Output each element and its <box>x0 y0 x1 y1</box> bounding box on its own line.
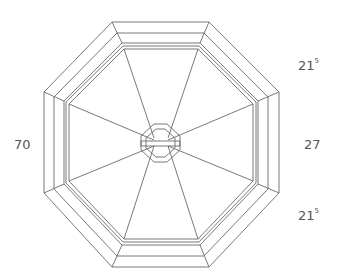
dimension-label-right-middle: 27 <box>304 137 321 152</box>
label-main: 21 <box>298 58 315 73</box>
frame-ring-2 <box>54 33 268 256</box>
label-sup: 5 <box>315 207 319 215</box>
dimension-label-right-bottom: 215 <box>298 208 319 223</box>
label-main: 27 <box>304 137 321 152</box>
octagon-window-diagram <box>0 0 341 278</box>
dimension-label-right-top: 215 <box>298 58 319 73</box>
frame-ring-5 <box>69 49 253 239</box>
dimension-label-left: 70 <box>14 137 31 152</box>
label-main: 70 <box>14 137 31 152</box>
frame-ring-4 <box>66 46 256 242</box>
frame-ring-3 <box>64 43 258 245</box>
label-main: 21 <box>298 208 315 223</box>
outer-frame <box>44 22 279 267</box>
label-sup: 5 <box>315 57 319 65</box>
center-bar <box>141 141 180 146</box>
center-hub-outer <box>141 124 180 162</box>
